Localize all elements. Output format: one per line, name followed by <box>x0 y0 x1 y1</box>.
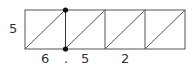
cell-diagonal <box>65 10 105 49</box>
bottom-digit-label: 2 <box>121 52 129 65</box>
bottom-digit-label: 6 <box>41 52 49 65</box>
decimal-point-label: . <box>64 52 68 65</box>
height-label: 5 <box>9 22 17 35</box>
bottom-digit-label: 5 <box>81 52 89 65</box>
cell-diagonal <box>25 10 65 49</box>
cell-diagonal <box>105 10 145 49</box>
multiplication-grid-diagram <box>0 0 194 68</box>
top-point-marker <box>63 7 68 12</box>
cell-diagonal <box>145 10 185 49</box>
